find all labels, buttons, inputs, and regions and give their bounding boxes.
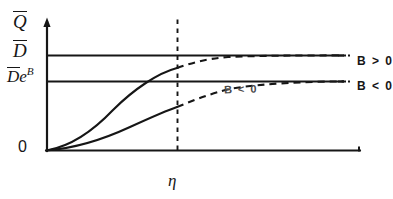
y-axis-arrowhead bbox=[43, 18, 50, 28]
y-tick-label-d-bar-e-b: DeB bbox=[7, 66, 34, 85]
figure-plot-svg bbox=[0, 0, 393, 199]
y-axis-label-q-bar-text: Q bbox=[13, 11, 27, 31]
y-tick-label-d-bar-e-b-base: D bbox=[7, 67, 19, 85]
curve-b-positive-solid bbox=[49, 68, 178, 150]
x-axis-label-eta: η bbox=[168, 172, 176, 189]
figure-container: Q D DeB 0 η B > 0 B < 0 B < 0 bbox=[0, 0, 393, 199]
y-tick-label-d-bar-text: D bbox=[13, 40, 27, 60]
y-tick-label-d-bar-e-b-suffix: e bbox=[19, 67, 27, 86]
legend-label-b-negative: B < 0 bbox=[357, 80, 393, 92]
annotation-b-negative: B < 0 bbox=[224, 83, 258, 95]
y-tick-label-d-bar: D bbox=[13, 40, 27, 60]
y-axis-label-q-bar: Q bbox=[13, 11, 27, 31]
legend-label-b-positive: B > 0 bbox=[357, 55, 393, 67]
origin-label: 0 bbox=[18, 139, 27, 155]
y-tick-label-d-bar-e-b-superscript: B bbox=[27, 65, 34, 77]
curve-b-negative-dashed bbox=[177, 81, 344, 107]
curve-b-positive-dashed bbox=[177, 55, 344, 68]
